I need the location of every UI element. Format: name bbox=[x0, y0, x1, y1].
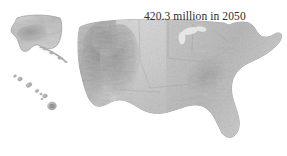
map-figure: 420.3 million in 2050 bbox=[0, 0, 287, 156]
eastern-ridge-texture bbox=[188, 45, 233, 105]
hawaii-island-niihau bbox=[13, 74, 17, 78]
map-canvas bbox=[0, 0, 287, 156]
hawaii-island-oahu bbox=[25, 82, 32, 89]
region-conterminous-united-states bbox=[76, 18, 287, 143]
hawaii-volcano-relief bbox=[49, 104, 54, 109]
hawaii-island-lanai bbox=[40, 93, 43, 95]
hawaii-island-molokai bbox=[35, 89, 40, 93]
region-hawaii-inset bbox=[13, 74, 57, 111]
hawaii-island-maui bbox=[42, 93, 48, 98]
alaska-range-relief bbox=[17, 25, 49, 43]
population-annotation: 420.3 million in 2050 bbox=[144, 9, 246, 23]
hawaii-island-kauai bbox=[17, 76, 23, 81]
hawaii-island-kahoolawe bbox=[41, 98, 43, 100]
region-alaska-inset bbox=[8, 12, 70, 68]
